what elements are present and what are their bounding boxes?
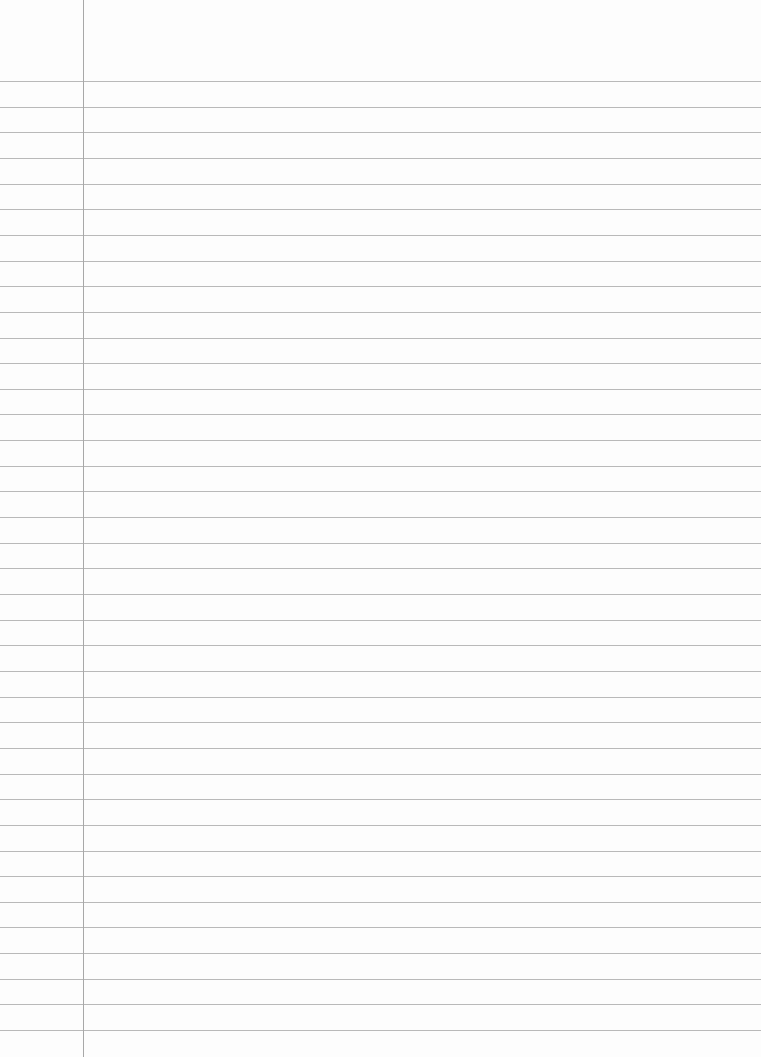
- ruled-line: [0, 209, 761, 210]
- ruled-line: [0, 927, 761, 928]
- ruled-line: [0, 1030, 761, 1031]
- ruled-line: [0, 671, 761, 672]
- ruled-line: [0, 953, 761, 954]
- ruled-line: [0, 466, 761, 467]
- ruled-line: [0, 338, 761, 339]
- ruled-line: [0, 132, 761, 133]
- margin-line: [83, 0, 84, 1057]
- ruled-line: [0, 184, 761, 185]
- ruled-line: [0, 594, 761, 595]
- ruled-line: [0, 440, 761, 441]
- ruled-line: [0, 697, 761, 698]
- ruled-line: [0, 748, 761, 749]
- ruled-line: [0, 851, 761, 852]
- ruled-line: [0, 286, 761, 287]
- ruled-line: [0, 261, 761, 262]
- ruled-line: [0, 158, 761, 159]
- ruled-line: [0, 825, 761, 826]
- ruled-line: [0, 902, 761, 903]
- ruled-paper-page: [0, 0, 761, 1057]
- ruled-line: [0, 774, 761, 775]
- ruled-line: [0, 81, 761, 82]
- ruled-line: [0, 620, 761, 621]
- ruled-line: [0, 363, 761, 364]
- ruled-line: [0, 1004, 761, 1005]
- ruled-line: [0, 722, 761, 723]
- ruled-line: [0, 389, 761, 390]
- ruled-line: [0, 107, 761, 108]
- ruled-line: [0, 979, 761, 980]
- ruled-line: [0, 645, 761, 646]
- ruled-line: [0, 517, 761, 518]
- ruled-line: [0, 876, 761, 877]
- ruled-line: [0, 312, 761, 313]
- ruled-line: [0, 568, 761, 569]
- ruled-line: [0, 543, 761, 544]
- ruled-line: [0, 235, 761, 236]
- ruled-line: [0, 414, 761, 415]
- ruled-line: [0, 799, 761, 800]
- ruled-line: [0, 491, 761, 492]
